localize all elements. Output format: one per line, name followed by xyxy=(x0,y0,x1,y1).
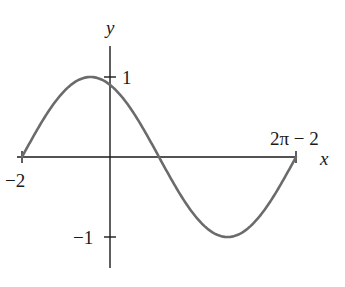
x-tick-label-2pi-minus-2: 2π − 2 xyxy=(270,128,319,149)
x-axis-label: x xyxy=(319,148,329,169)
y-tick-label-neg1: −1 xyxy=(73,227,93,248)
y-tick-label-1: 1 xyxy=(122,67,132,88)
x-tick-label-neg2: −2 xyxy=(5,170,25,191)
function-graph: y x 1 −1 −2 2π − 2 xyxy=(0,0,345,287)
y-axis-label: y xyxy=(104,17,115,38)
